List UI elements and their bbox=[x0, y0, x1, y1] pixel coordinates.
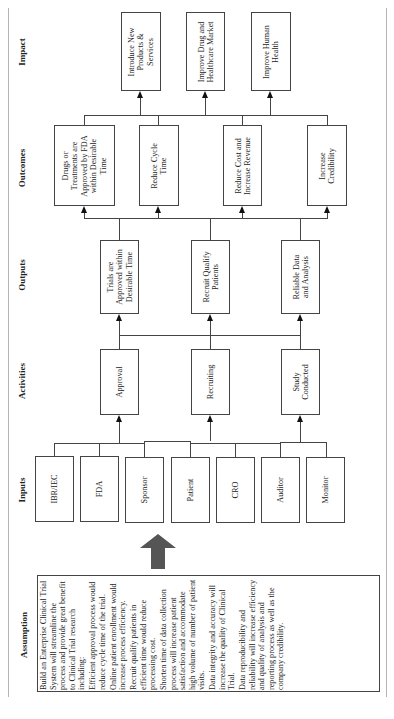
arrow-up-icon bbox=[207, 415, 213, 422]
output-box-trials-approved: Trials areApproved withinDesirable Time bbox=[100, 240, 139, 314]
output-box-recruit-patients: Recruit QualifyPatients bbox=[191, 240, 230, 314]
arrow-up-icon bbox=[155, 206, 161, 213]
input-text: IBR/IEC bbox=[50, 474, 59, 503]
connector-outcomes-impact-bus bbox=[84, 115, 328, 116]
connector-line bbox=[144, 441, 145, 457]
frame-right-line bbox=[386, 8, 387, 697]
arrow-up-icon bbox=[297, 415, 303, 422]
connector-line bbox=[158, 115, 159, 125]
input-text: Patient bbox=[186, 479, 195, 502]
connector-line bbox=[84, 115, 85, 125]
arrow-up-icon bbox=[202, 91, 208, 98]
impact-box-new-products: Introduce NewProducts &Services bbox=[121, 12, 161, 91]
outcome-text: Reduce CycleTime bbox=[150, 143, 169, 189]
arrow-up-icon bbox=[239, 206, 245, 213]
input-text: Monitor bbox=[321, 477, 330, 504]
assumption-text: Build an Enterprise Clinical Trial Syste… bbox=[39, 578, 379, 690]
connector-line bbox=[326, 442, 327, 457]
connector-line bbox=[119, 421, 120, 443]
label-outputs: Outputs bbox=[17, 259, 27, 291]
connector-line bbox=[190, 441, 191, 457]
connector-line bbox=[210, 320, 211, 349]
activity-box-study-conducted: StudyConducted bbox=[281, 349, 320, 415]
output-text: Trials areApproved withinDesirable Time bbox=[105, 249, 133, 305]
impact-text: Introduce NewProducts &Services bbox=[127, 27, 155, 76]
activity-text: StudyConducted bbox=[291, 364, 310, 399]
label-outcomes: Outcomes bbox=[17, 149, 27, 188]
output-text: Reliable Dataand Analysis bbox=[291, 255, 310, 300]
connector-line bbox=[54, 443, 55, 456]
connector-line bbox=[235, 443, 236, 457]
label-inputs: Inputs bbox=[17, 477, 27, 502]
arrow-up-icon bbox=[297, 314, 303, 321]
impact-box-human-health: Improve HumanHealth bbox=[251, 12, 291, 91]
connector-line bbox=[270, 96, 271, 115]
input-box-cro: CRO bbox=[216, 457, 255, 523]
outcome-box-increase-credibility: IncreaseCredibility bbox=[307, 125, 347, 206]
input-box-ibr-iec: IBR/IEC bbox=[35, 456, 74, 522]
input-box-fda: FDA bbox=[80, 456, 119, 522]
connector-line bbox=[300, 218, 301, 240]
outcome-box-reduce-cycle-time: Reduce CycleTime bbox=[139, 125, 179, 206]
arrow-up-icon bbox=[324, 206, 330, 213]
activity-box-recruiting: Recruiting bbox=[191, 349, 230, 415]
arrow-up-icon bbox=[116, 415, 122, 422]
activity-text: Approval bbox=[115, 367, 124, 398]
input-box-sponsor: Sponsor bbox=[125, 457, 164, 523]
connector-line bbox=[300, 421, 301, 443]
connector-line bbox=[140, 96, 141, 115]
connector-line bbox=[280, 442, 281, 457]
connector-outputs-outcomes-bus bbox=[84, 218, 328, 219]
arrow-up-icon bbox=[81, 206, 87, 213]
label-assumption: Assumption bbox=[19, 612, 29, 658]
connector-line bbox=[99, 443, 100, 456]
connector-line bbox=[210, 421, 211, 441]
outcome-text: Drugs orTreatments areApproved by FDAwit… bbox=[61, 135, 108, 196]
activity-box-approval: Approval bbox=[100, 349, 139, 415]
activity-text: Recruiting bbox=[206, 365, 215, 400]
arrow-up-icon bbox=[267, 91, 273, 98]
connector-inputs-bus bbox=[144, 441, 190, 442]
input-text: FDA bbox=[95, 481, 104, 497]
input-text: Auditor bbox=[276, 477, 285, 502]
label-activities: Activities bbox=[17, 363, 27, 399]
outcome-box-reduce-cost: Reduce Cost andIncrease Revenue bbox=[223, 125, 262, 206]
outcome-box-fda-approval: Drugs orTreatments areApproved by FDAwit… bbox=[54, 125, 115, 206]
impact-text: Improve Drug andHealthcare Market bbox=[196, 21, 215, 82]
label-impact: Impact bbox=[17, 38, 27, 66]
impact-text: Improve HumanHealth bbox=[262, 25, 281, 79]
input-box-auditor: Auditor bbox=[261, 457, 300, 523]
outcome-text: Reduce Cost andIncrease Revenue bbox=[233, 137, 252, 195]
output-box-reliable-data: Reliable Dataand Analysis bbox=[281, 240, 320, 314]
arrow-up-icon bbox=[207, 314, 213, 321]
big-arrow-up-icon bbox=[139, 534, 177, 569]
assumption-box: Build an Enterprise Clinical Trial Syste… bbox=[37, 575, 380, 692]
input-box-monitor: Monitor bbox=[306, 457, 345, 523]
connector-line bbox=[300, 320, 301, 349]
outcome-text: IncreaseCredibility bbox=[318, 148, 337, 183]
connector-line bbox=[210, 218, 211, 240]
connector-inputs-bus bbox=[280, 442, 327, 443]
connector-line bbox=[327, 115, 328, 125]
arrow-up-icon bbox=[137, 91, 143, 98]
input-text: Sponsor bbox=[140, 477, 149, 504]
input-text: CRO bbox=[231, 482, 240, 499]
connector-line bbox=[205, 96, 206, 115]
connector-line bbox=[119, 218, 120, 240]
connector-line bbox=[242, 115, 243, 125]
output-text: Recruit QualifyPatients bbox=[201, 251, 220, 302]
connector-line bbox=[119, 320, 120, 349]
impact-box-healthcare-market: Improve Drug andHealthcare Market bbox=[186, 12, 225, 91]
frame-left-line bbox=[8, 8, 9, 697]
input-box-patient: Patient bbox=[171, 457, 210, 523]
arrow-up-icon bbox=[116, 314, 122, 321]
